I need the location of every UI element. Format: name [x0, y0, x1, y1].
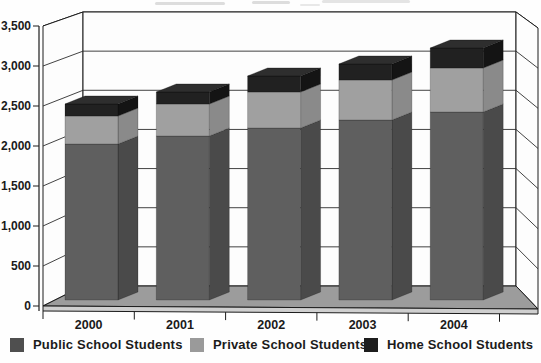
- bar-2003-side-segment: [392, 72, 412, 120]
- y-axis-label: 3,000: [1, 59, 31, 73]
- x-axis-label: 2003: [349, 318, 377, 332]
- x-axis-label: 2001: [166, 318, 194, 332]
- bar-2001-front-segment: [156, 92, 209, 104]
- legend-swatch-icon: [10, 338, 24, 352]
- legend-item: Private School Students: [190, 337, 367, 352]
- bar-2004-front-segment: [430, 112, 483, 300]
- x-axis-label: 2004: [440, 318, 468, 332]
- y-axis-label: 1,000: [1, 219, 31, 233]
- bar-2000-front-segment: [65, 116, 118, 144]
- legend-label: Private School Students: [213, 337, 367, 352]
- bar-2003-front-segment: [339, 80, 392, 120]
- bar-2000-side-segment: [118, 136, 138, 300]
- y-axis-label: 3,500: [1, 19, 31, 33]
- bar-2004-side-segment: [483, 60, 503, 112]
- y-axis-label: 2,000: [1, 139, 31, 153]
- y-axis-label: 2,500: [1, 99, 31, 113]
- bar-2000-front-segment: [65, 144, 118, 300]
- bar-2003-side-segment: [392, 112, 412, 300]
- legend-swatch-icon: [364, 338, 378, 352]
- legend-item: Home School Students: [364, 337, 533, 352]
- scanned-chart-page: 3,5003,0002,5002,0001,5001,0005000200020…: [0, 0, 541, 363]
- x-axis-label: 2000: [75, 318, 103, 332]
- chart-right-wall: [516, 12, 538, 309]
- legend-label: Public School Students: [33, 337, 183, 352]
- y-axis-label: 500: [11, 259, 31, 273]
- bar-2003-front-segment: [339, 120, 392, 300]
- bar-2001-side-segment: [209, 128, 229, 300]
- chart-legend: Public School StudentsPrivate School Stu…: [0, 337, 541, 363]
- bar-2003-front-segment: [339, 64, 392, 80]
- stacked-bar-chart-3d: 3,5003,0002,5002,0001,5001,0005000200020…: [0, 0, 541, 336]
- legend-swatch-icon: [190, 338, 204, 352]
- legend-item: Public School Students: [10, 337, 183, 352]
- bar-2001-front-segment: [156, 136, 209, 300]
- bar-2004-front-segment: [430, 68, 483, 112]
- y-axis-label: 0: [24, 299, 31, 313]
- bar-2004-front-segment: [430, 48, 483, 68]
- bar-2002-front-segment: [248, 92, 301, 128]
- bar-2001-front-segment: [156, 104, 209, 136]
- bar-2002-front-segment: [248, 128, 301, 300]
- bar-2004-side-segment: [483, 104, 503, 300]
- bar-2002-front-segment: [248, 76, 301, 92]
- x-axis-label: 2002: [257, 318, 285, 332]
- legend-label: Home School Students: [387, 337, 533, 352]
- bar-2000-front-segment: [65, 104, 118, 116]
- bar-2002-side-segment: [301, 120, 321, 300]
- y-axis-label: 1,500: [1, 179, 31, 193]
